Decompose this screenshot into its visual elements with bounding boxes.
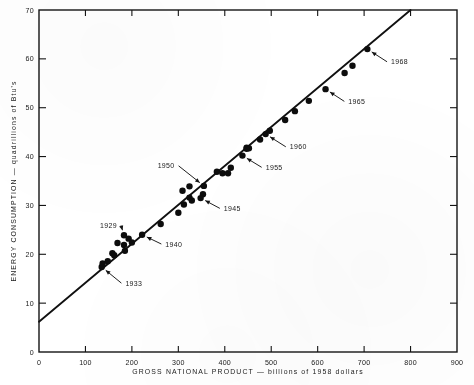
annotation-label-1965: 1965 <box>348 98 365 105</box>
y-tick-label: 20 <box>26 251 34 259</box>
y-tick-label: 10 <box>26 300 34 308</box>
y-axis-tick-labels: 010203040506070 <box>26 7 34 357</box>
data-point <box>179 188 185 194</box>
y-tick-label: 40 <box>26 153 34 161</box>
data-point <box>282 117 288 123</box>
x-tick-label: 0 <box>37 359 41 367</box>
data-point <box>129 239 135 245</box>
x-tick-label: 900 <box>451 359 464 367</box>
annotation-label-1955: 1955 <box>266 164 283 171</box>
x-tick-label: 300 <box>172 359 185 367</box>
data-point <box>181 201 187 207</box>
data-point <box>186 183 192 189</box>
data-point <box>139 232 145 238</box>
data-point <box>306 98 312 104</box>
annotation-arrowhead-1929 <box>119 225 123 230</box>
x-tick-label: 500 <box>265 359 278 367</box>
annotation-label-1945: 1945 <box>224 205 241 212</box>
data-point <box>219 170 225 176</box>
annotation-label-1929: 1929 <box>100 222 117 229</box>
y-tick-label: 0 <box>30 349 34 357</box>
year-annotations: 192919331940194519501955196019651968 <box>100 52 408 287</box>
x-tick-label: 600 <box>311 359 324 367</box>
annotation-label-1960: 1960 <box>290 143 307 150</box>
data-point <box>349 62 355 68</box>
data-point <box>214 169 220 175</box>
data-point <box>364 46 370 52</box>
x-tick-label: 700 <box>358 359 371 367</box>
x-axis-title: GROSS NATIONAL PRODUCT — billions of 195… <box>132 368 364 375</box>
data-point <box>201 183 207 189</box>
chart-figure: 0100200300400500600700800900 01020304050… <box>0 0 474 385</box>
annotation-label-1940: 1940 <box>165 241 182 248</box>
data-point <box>225 170 231 176</box>
data-point <box>197 195 203 201</box>
data-point <box>322 86 328 92</box>
data-point <box>267 127 273 133</box>
data-point <box>99 264 105 270</box>
data-point <box>292 108 298 114</box>
data-point <box>105 258 111 264</box>
x-tick-label: 100 <box>79 359 92 367</box>
y-tick-label: 70 <box>26 7 34 15</box>
annotation-arrowhead-1960 <box>270 137 275 141</box>
data-point <box>243 146 249 152</box>
x-axis-tick-labels: 0100200300400500600700800900 <box>37 359 463 367</box>
regression-line <box>39 10 411 322</box>
annotation-label-1968: 1968 <box>391 58 408 65</box>
data-point <box>121 242 127 248</box>
data-point <box>239 152 245 158</box>
data-point <box>111 252 117 258</box>
y-tick-label: 50 <box>26 104 34 112</box>
x-tick-label: 800 <box>404 359 417 367</box>
scatter-plot-svg: 0100200300400500600700800900 01020304050… <box>0 0 474 385</box>
x-tick-label: 400 <box>218 359 231 367</box>
annotation-arrowhead-1965 <box>330 92 335 96</box>
data-point <box>175 210 181 216</box>
data-point <box>114 240 120 246</box>
x-axis-ticks <box>85 10 410 352</box>
annotation-label-1933: 1933 <box>125 280 142 287</box>
annotation-label-1950: 1950 <box>158 162 175 169</box>
data-point <box>341 70 347 76</box>
y-axis-title: ENERGY CONSUMPTION — quadrillions of Btu… <box>10 80 18 281</box>
data-point <box>257 136 263 142</box>
y-tick-label: 60 <box>26 55 34 63</box>
data-point <box>186 194 192 200</box>
annotation-arrowhead-1968 <box>372 52 377 56</box>
data-point <box>122 248 128 254</box>
x-tick-label: 200 <box>126 359 139 367</box>
data-point <box>157 221 163 227</box>
y-tick-label: 30 <box>26 202 34 210</box>
regression-fit-line <box>39 10 411 322</box>
